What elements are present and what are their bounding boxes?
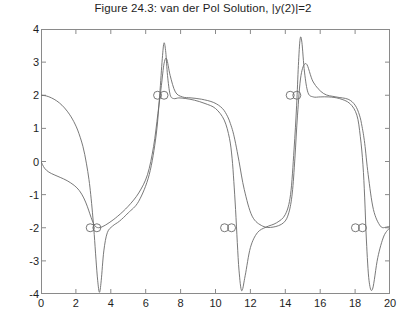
series-line bbox=[41, 58, 390, 228]
y-axis-tick-labels: 43210-1-2-3-4 bbox=[13, 29, 39, 294]
y-axis-tick-marks bbox=[41, 30, 390, 294]
x-tick-label: 0 bbox=[38, 297, 44, 309]
x-tick-label: 12 bbox=[244, 297, 256, 309]
y-tick-label: -4 bbox=[17, 288, 39, 300]
x-tick-label: 20 bbox=[384, 297, 396, 309]
x-tick-label: 14 bbox=[279, 297, 291, 309]
y-tick-label: 1 bbox=[17, 122, 39, 134]
y-tick-label: -1 bbox=[17, 189, 39, 201]
chart-canvas bbox=[41, 29, 390, 294]
x-tick-label: 4 bbox=[108, 297, 114, 309]
y-tick-label: -3 bbox=[17, 255, 39, 267]
plot-border bbox=[42, 30, 390, 294]
y-tick-label: 4 bbox=[17, 23, 39, 35]
series-lines bbox=[41, 37, 390, 293]
x-tick-label: 6 bbox=[143, 297, 149, 309]
x-axis-tick-labels: 02468101214161820 bbox=[41, 297, 390, 315]
y-tick-label: 2 bbox=[17, 89, 39, 101]
x-axis-tick-marks bbox=[42, 29, 390, 294]
x-tick-label: 16 bbox=[314, 297, 326, 309]
x-tick-label: 8 bbox=[178, 297, 184, 309]
y-tick-label: 0 bbox=[17, 156, 39, 168]
y-tick-label: -2 bbox=[17, 222, 39, 234]
plot-area bbox=[41, 29, 390, 294]
event-markers bbox=[86, 91, 366, 232]
figure-container: Figure 24.3: van der Pol Solution, |y(2)… bbox=[0, 0, 406, 335]
x-tick-label: 10 bbox=[209, 297, 221, 309]
x-tick-label: 2 bbox=[73, 297, 79, 309]
x-tick-label: 18 bbox=[349, 297, 361, 309]
y-tick-label: 3 bbox=[17, 56, 39, 68]
series-line bbox=[41, 37, 390, 293]
chart-title: Figure 24.3: van der Pol Solution, |y(2)… bbox=[0, 2, 406, 14]
